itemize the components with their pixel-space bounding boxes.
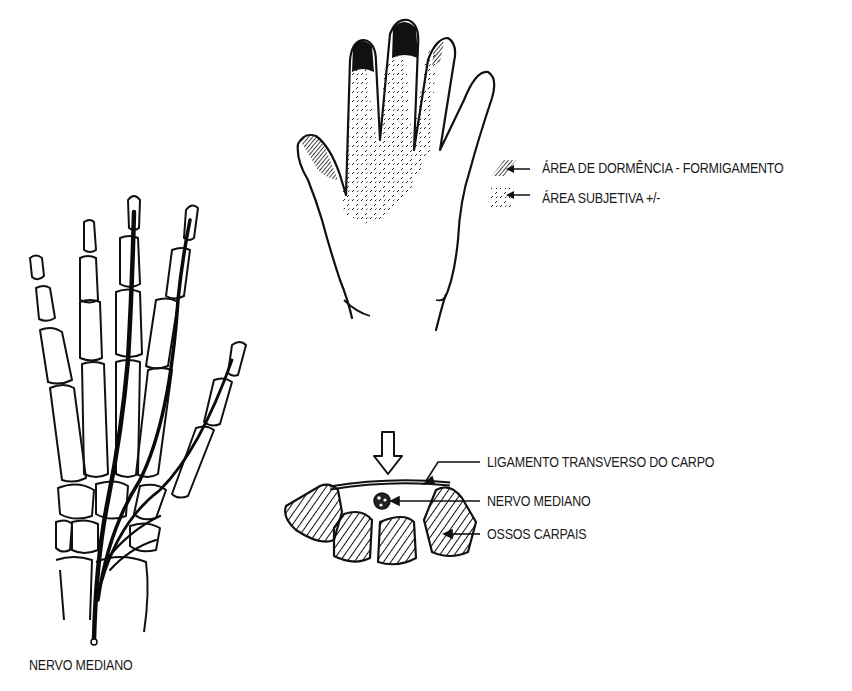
ligament-leader-line [426,462,480,481]
carpal-bone-4 [424,487,476,556]
carpal-bone-2 [334,512,372,562]
carpal-bone-3 [378,517,416,564]
ligament-label: LIGAMENTO TRANSVERSO DO CARPO [487,454,714,470]
carpal-bones-label: OSSOS CARPAIS [487,526,586,542]
pressure-arrow-icon [374,432,402,474]
median-nerve-cross-section [374,493,390,509]
median-nerve-label: NERVO MEDIANO [487,493,591,509]
carpal-tunnel-cross-section [0,0,852,691]
